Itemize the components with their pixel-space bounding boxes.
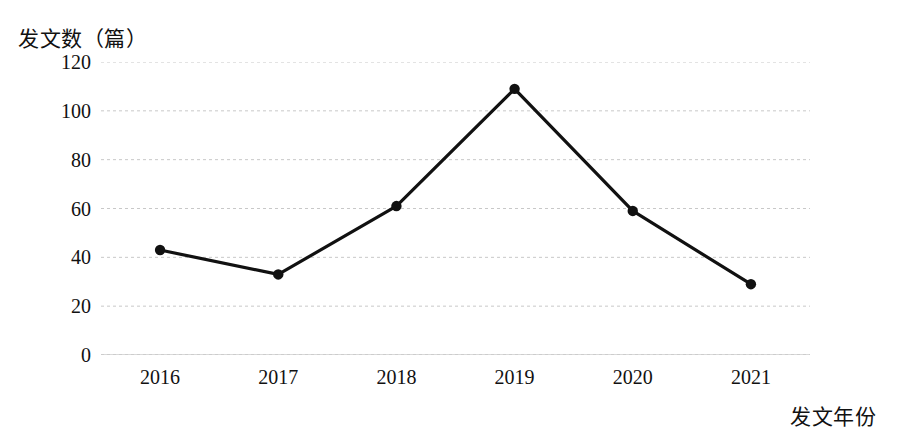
- x-tick-label: 2020: [613, 364, 653, 390]
- gridlines: [101, 62, 810, 355]
- y-tick-label: 20: [29, 296, 91, 316]
- y-tick-label: 0: [29, 345, 91, 365]
- data-point: [273, 269, 283, 279]
- y-tick-label: 60: [29, 199, 91, 219]
- plot-svg: [101, 62, 810, 355]
- data-point: [155, 245, 165, 255]
- x-tick-label: 2019: [495, 364, 535, 390]
- x-tick-label: 2018: [376, 364, 416, 390]
- line-chart: 发文数（篇） 发文年份 020406080100120 201620172018…: [0, 0, 904, 443]
- y-tick-label: 100: [29, 101, 91, 121]
- x-axis-tick-labels: 201620172018201920202021: [101, 364, 810, 394]
- x-axis-title: 发文年份: [790, 404, 876, 430]
- x-tick-label: 2021: [731, 364, 771, 390]
- data-point: [391, 201, 401, 211]
- data-point: [628, 206, 638, 216]
- x-tick-label: 2017: [258, 364, 298, 390]
- x-tick-label: 2016: [140, 364, 180, 390]
- data-markers: [155, 84, 756, 290]
- data-point: [746, 279, 756, 289]
- data-point: [509, 84, 519, 94]
- y-tick-label: 40: [29, 247, 91, 267]
- data-line: [160, 89, 751, 284]
- y-tick-label: 80: [29, 150, 91, 170]
- y-axis-title: 发文数（篇）: [18, 26, 147, 52]
- plot-area: [101, 62, 810, 355]
- y-axis-tick-labels: 020406080100120: [29, 62, 91, 355]
- y-tick-label: 120: [29, 52, 91, 72]
